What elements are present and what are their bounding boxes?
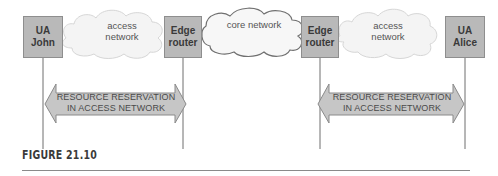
node-edge-left-line2: router bbox=[169, 37, 198, 49]
node-ua-alice: UA Alice bbox=[445, 16, 485, 58]
arrow-right-label: RESOURCE RESERVATION IN ACCESS NETWORK bbox=[332, 92, 452, 114]
cloud-access-left-line1: access bbox=[92, 20, 152, 31]
cloud-access-right-line1: access bbox=[358, 20, 418, 31]
cloud-access-left-line2: network bbox=[92, 31, 152, 42]
caption-rule-divider bbox=[22, 170, 470, 171]
arrow-right-line1: RESOURCE RESERVATION bbox=[332, 92, 452, 103]
node-edge-right-line1: Edge bbox=[306, 25, 335, 37]
arrow-right-line2: IN ACCESS NETWORK bbox=[332, 103, 452, 114]
node-ua-alice-line2: Alice bbox=[453, 37, 477, 49]
node-edge-router-right: Edge router bbox=[301, 16, 339, 58]
arrow-left-line1: RESOURCE RESERVATION bbox=[56, 92, 176, 103]
arrow-left-label: RESOURCE RESERVATION IN ACCESS NETWORK bbox=[56, 92, 176, 114]
cloud-core-label: core network bbox=[214, 19, 294, 30]
cloud-access-right-line2: network bbox=[358, 31, 418, 42]
node-ua-john: UA John bbox=[23, 16, 63, 58]
node-ua-john-line1: UA bbox=[31, 25, 55, 37]
cloud-core bbox=[202, 8, 303, 56]
node-edge-router-left: Edge router bbox=[164, 16, 202, 58]
arrow-left-line2: IN ACCESS NETWORK bbox=[56, 103, 176, 114]
node-ua-john-line2: John bbox=[31, 37, 55, 49]
node-ua-alice-line1: UA bbox=[453, 25, 477, 37]
node-edge-left-line1: Edge bbox=[169, 25, 198, 37]
figure-caption: FIGURE 21.10 bbox=[22, 148, 97, 162]
cloud-access-right-label: access network bbox=[358, 20, 418, 42]
cloud-access-left-label: access network bbox=[92, 20, 152, 42]
cloud-core-line1: core network bbox=[214, 19, 294, 30]
node-edge-right-line2: router bbox=[306, 37, 335, 49]
